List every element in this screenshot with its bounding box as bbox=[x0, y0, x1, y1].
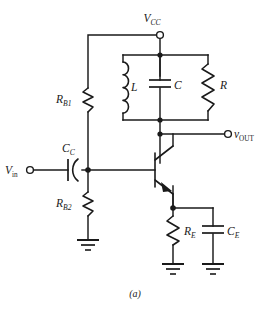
npn-transistor-q1 bbox=[155, 134, 173, 208]
label-c: C bbox=[174, 79, 182, 91]
label-rb2: RB2 bbox=[55, 197, 72, 212]
node-output bbox=[157, 131, 162, 136]
label-l: L bbox=[130, 81, 137, 93]
vcc-terminal-circle[interactable] bbox=[157, 32, 164, 39]
cc-right-plate bbox=[73, 159, 78, 181]
transistor-collector-lead bbox=[155, 146, 173, 160]
node-tank-bottom bbox=[157, 117, 162, 122]
r-zigzag bbox=[202, 64, 214, 111]
circuit-figure: VCC Vin vOUT RB1 RB2 L bbox=[0, 0, 271, 314]
label-re: RE bbox=[183, 225, 196, 240]
ground-rb2 bbox=[77, 240, 99, 250]
vin-terminal-circle[interactable] bbox=[27, 167, 34, 174]
ground-re bbox=[162, 264, 184, 274]
label-vcc: VCC bbox=[143, 12, 161, 27]
inductor-l bbox=[123, 62, 129, 113]
label-rb1: RB1 bbox=[55, 93, 71, 108]
label-vin: Vin bbox=[5, 164, 18, 179]
label-r: R bbox=[219, 79, 227, 91]
resistor-re bbox=[167, 216, 179, 245]
label-cc: CC bbox=[62, 142, 76, 157]
label-ce: CE bbox=[227, 225, 240, 240]
ground-ce bbox=[202, 264, 224, 274]
node-base bbox=[85, 167, 91, 173]
inductor-coils bbox=[123, 62, 129, 113]
figure-caption: (a) bbox=[129, 288, 141, 300]
capacitor-ce bbox=[202, 226, 224, 233]
resistor-rb2 bbox=[83, 192, 93, 216]
label-vout: vOUT bbox=[234, 128, 254, 143]
transistor-emitter-arrow bbox=[161, 182, 172, 192]
vout-terminal-circle[interactable] bbox=[225, 131, 232, 138]
rb2-zigzag bbox=[83, 192, 93, 216]
rb1-zigzag bbox=[83, 88, 93, 112]
node-tank-top bbox=[157, 52, 162, 57]
circuit-schematic: VCC Vin vOUT RB1 RB2 L bbox=[0, 0, 271, 314]
node-emitter bbox=[170, 205, 176, 211]
resistor-rb1 bbox=[83, 88, 93, 112]
resistor-r bbox=[202, 64, 214, 111]
capacitor-cc bbox=[68, 159, 78, 181]
capacitor-c bbox=[149, 80, 171, 87]
re-zigzag bbox=[167, 216, 179, 245]
